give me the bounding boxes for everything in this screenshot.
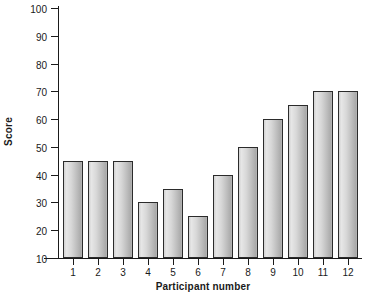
- bar: [163, 189, 183, 258]
- bar: [63, 161, 83, 258]
- x-axis-tick-label: 9: [270, 267, 276, 278]
- x-axis-tick-label: 5: [170, 267, 176, 278]
- y-axis-tick: 40: [51, 175, 58, 176]
- y-axis-tick: 80: [51, 64, 58, 65]
- x-axis-tick-label: 2: [95, 267, 101, 278]
- y-axis-line: [58, 6, 59, 259]
- bar-chart: Score 102030405060708090100 123456789101…: [0, 0, 369, 299]
- bar: [263, 119, 283, 258]
- x-axis-tick: [298, 259, 299, 265]
- bar: [313, 91, 333, 258]
- y-axis-tick-label: 100: [30, 3, 47, 14]
- x-axis-tick: [323, 259, 324, 265]
- x-axis-tick: [173, 259, 174, 265]
- x-axis-tick-label: 6: [195, 267, 201, 278]
- x-axis-tick-label: 12: [342, 267, 353, 278]
- x-axis-tick: [98, 259, 99, 265]
- y-axis-tick: 90: [51, 36, 58, 37]
- y-axis-tick-label: 50: [36, 142, 47, 153]
- y-axis-tick-label: 20: [36, 225, 47, 236]
- y-axis-tick-label: 40: [36, 170, 47, 181]
- y-axis-tick-label: 70: [36, 86, 47, 97]
- x-axis-tick: [248, 259, 249, 265]
- y-axis-tick-label: 90: [36, 31, 47, 42]
- bar: [213, 175, 233, 258]
- bar: [88, 161, 108, 258]
- y-axis-tick-label: 80: [36, 59, 47, 70]
- x-axis-tick-label: 1: [70, 267, 76, 278]
- x-axis-tick: [273, 259, 274, 265]
- y-axis-tick-label: 30: [36, 197, 47, 208]
- x-axis-tick: [348, 259, 349, 265]
- bar: [288, 105, 308, 258]
- bar: [238, 147, 258, 258]
- x-axis-tick-label: 8: [245, 267, 251, 278]
- y-axis-tick-label: 60: [36, 114, 47, 125]
- y-axis-tick: 50: [51, 147, 58, 148]
- bar: [113, 161, 133, 258]
- x-axis-tick-label: 11: [318, 267, 328, 278]
- x-axis-tick: [123, 259, 124, 265]
- x-axis-line: [44, 258, 362, 259]
- y-axis-tick: 10: [51, 258, 58, 259]
- y-axis-tick: 60: [51, 119, 58, 120]
- x-axis-title: Participant number: [44, 281, 362, 292]
- x-axis-tick: [73, 259, 74, 265]
- bar: [188, 216, 208, 258]
- y-axis-tick-label: 10: [36, 253, 47, 264]
- x-axis-tick-label: 3: [120, 267, 126, 278]
- y-axis-tick: 30: [51, 202, 58, 203]
- x-axis-tick-label: 4: [145, 267, 151, 278]
- y-axis-title: Score: [0, 0, 16, 262]
- x-axis-tick: [148, 259, 149, 265]
- y-axis-title-text: Score: [3, 117, 14, 146]
- bar: [338, 91, 358, 258]
- x-axis-tick-label: 7: [220, 267, 226, 278]
- y-axis-tick: 20: [51, 230, 58, 231]
- x-axis-tick-label: 10: [292, 267, 303, 278]
- bar: [138, 202, 158, 258]
- x-axis-tick: [198, 259, 199, 265]
- y-axis-tick: 70: [51, 91, 58, 92]
- y-axis-tick: 100: [51, 8, 58, 9]
- x-axis-tick: [223, 259, 224, 265]
